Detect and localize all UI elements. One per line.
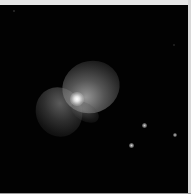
right-border xyxy=(188,0,191,194)
nebula-image xyxy=(0,5,188,193)
star xyxy=(142,123,147,128)
central-star xyxy=(70,92,84,106)
star xyxy=(173,44,175,46)
star xyxy=(129,143,134,148)
star xyxy=(173,133,177,137)
star xyxy=(13,10,15,12)
bottom-border xyxy=(0,193,191,194)
